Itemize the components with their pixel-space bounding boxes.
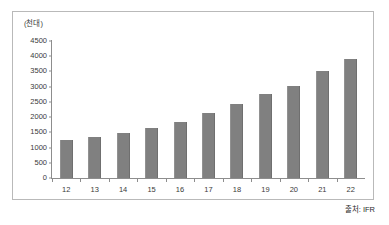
x-axis-tick-label: 16 (166, 185, 194, 194)
bar-slot: 17 (194, 41, 222, 178)
x-axis-tick-label: 17 (194, 185, 222, 194)
bar[interactable] (60, 140, 73, 178)
x-axis-tick-label: 18 (223, 185, 251, 194)
chart-figure: (천대) 05001000150020002500300035004000450… (0, 0, 389, 225)
y-axis-unit-label: (천대) (24, 19, 43, 28)
bar-slot: 21 (308, 41, 336, 178)
x-axis-tick-label: 21 (308, 185, 336, 194)
x-axis-tick-label: 15 (137, 185, 165, 194)
bar-slot: 13 (80, 41, 108, 178)
x-axis-tick-mark (109, 179, 110, 182)
x-axis-tick-mark (251, 179, 252, 182)
bar[interactable] (117, 133, 130, 178)
x-axis-tick-mark (52, 179, 53, 182)
bar[interactable] (88, 137, 101, 178)
x-axis-tick-mark (137, 179, 138, 182)
bar-slot: 14 (109, 41, 137, 178)
bar-slot: 18 (223, 41, 251, 178)
x-axis-tick-mark (308, 179, 309, 182)
x-axis-tick-label: 19 (251, 185, 279, 194)
x-axis-tick-label: 12 (52, 185, 80, 194)
x-axis-tick-label: 13 (80, 185, 108, 194)
bar-series: 1213141516171819202122 (52, 41, 365, 178)
bar-slot: 16 (166, 41, 194, 178)
bar-slot: 22 (337, 41, 365, 178)
bar[interactable] (287, 86, 300, 178)
bar[interactable] (145, 128, 158, 178)
bar-slot: 12 (52, 41, 80, 178)
x-axis-tick-label: 22 (337, 185, 365, 194)
bar[interactable] (230, 104, 243, 178)
plot-area: 050010001500200025003000350040004500 121… (52, 41, 365, 178)
bar[interactable] (316, 71, 329, 178)
x-axis-tick-mark (80, 179, 81, 182)
x-axis-tick-mark (337, 179, 338, 182)
x-axis-tick-mark (223, 179, 224, 182)
bar-slot: 20 (280, 41, 308, 178)
bar[interactable] (202, 113, 215, 178)
x-axis-tick-mark (280, 179, 281, 182)
bar[interactable] (344, 59, 357, 178)
x-axis-tick-label: 20 (280, 185, 308, 194)
source-note: 출처: IFR (345, 205, 375, 215)
bar-slot: 19 (251, 41, 279, 178)
bar-slot: 15 (137, 41, 165, 178)
bar[interactable] (174, 122, 187, 178)
x-axis-tick-label: 14 (109, 185, 137, 194)
x-axis-tick-mark (194, 179, 195, 182)
x-axis-tick-mark (166, 179, 167, 182)
bar[interactable] (259, 94, 272, 178)
x-axis-line (51, 178, 365, 179)
